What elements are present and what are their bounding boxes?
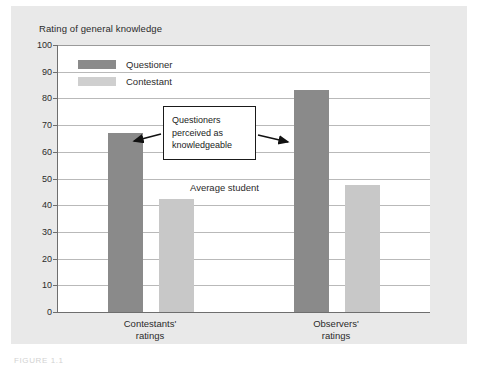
y-axis-tick-label: 70 [24,120,52,130]
chart-legend: Questioner Contestant [78,56,228,90]
bar-contestant-0 [159,199,194,312]
y-axis-tick-mark [53,179,57,180]
x-axis-category-label: Contestants' ratings [90,318,210,342]
y-axis-tick-label: 40 [24,200,52,210]
y-axis-tick-mark [53,312,57,313]
x-axis-category-label: Observers' ratings [276,318,396,342]
y-axis-tick-label: 0 [24,307,52,317]
y-axis-tick-labels: 0102030405060708090100 [20,45,52,312]
y-axis-tick-mark [53,45,57,46]
y-axis-tick-mark [53,98,57,99]
legend-swatch-icon-contestant [78,77,116,86]
legend-swatch-icon-questioner [78,60,116,69]
y-axis-tick-label: 10 [24,280,52,290]
legend-label-contestant: Contestant [126,76,172,87]
bar-contestant-1 [345,185,380,312]
y-axis-tick-mark [53,125,57,126]
y-axis-tick-mark [53,205,57,206]
y-axis-tick-label: 90 [24,67,52,77]
callout-annotation-text: Questioners perceived as knowledgeable [172,114,232,152]
legend-label-questioner: Questioner [126,59,172,70]
y-axis-tick-mark [53,152,57,153]
y-axis-tick-mark [53,232,57,233]
callout-annotation: Questioners perceived as knowledgeable [163,106,256,160]
y-axis-tick-label: 100 [24,40,52,50]
bar-questioner-0 [108,133,143,312]
y-axis-tick-label: 60 [24,147,52,157]
gridline [58,98,430,99]
y-axis-tick-label: 80 [24,93,52,103]
legend-item-contestant: Contestant [78,73,228,90]
y-axis-tick-mark [53,285,57,286]
y-axis-tick-label: 20 [24,254,52,264]
figure-caption: FIGURE 1.1 [14,356,64,365]
chart-axis-title: Rating of general knowledge [39,23,162,34]
y-axis-tick-label: 50 [24,174,52,184]
y-axis-tick-mark [53,72,57,73]
y-axis-tick-label: 30 [24,227,52,237]
figure-container: Rating of general knowledge 010203040506… [0,0,478,375]
legend-item-questioner: Questioner [78,56,228,73]
average-student-label: Average student [190,182,259,193]
bar-questioner-1 [294,90,329,312]
gridline [58,45,430,46]
y-axis-tick-mark [53,259,57,260]
